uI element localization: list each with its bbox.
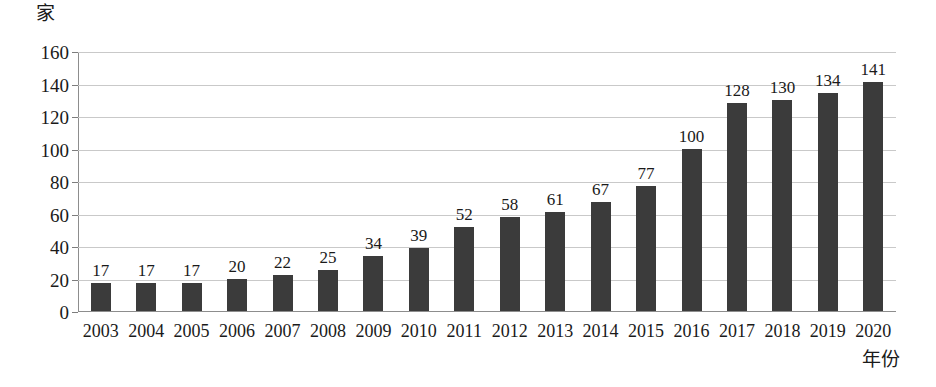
x-axis-tick-label: 2012 bbox=[492, 322, 528, 340]
y-axis-tick bbox=[72, 52, 78, 53]
y-axis-tick bbox=[72, 150, 78, 151]
bar-value-label: 128 bbox=[724, 82, 750, 99]
y-axis-tick-label: 80 bbox=[50, 173, 69, 192]
bar-value-label: 58 bbox=[501, 196, 518, 213]
y-axis-tick bbox=[72, 312, 78, 313]
bar-value-label: 20 bbox=[229, 258, 246, 275]
bar-value-label: 67 bbox=[592, 181, 609, 198]
bar bbox=[363, 256, 383, 311]
bar bbox=[227, 279, 247, 312]
y-axis-tick bbox=[72, 117, 78, 118]
x-axis-tick-label: 2009 bbox=[355, 322, 391, 340]
bar bbox=[454, 227, 474, 312]
x-axis-tick-label: 2007 bbox=[265, 322, 301, 340]
y-axis-tick bbox=[72, 85, 78, 86]
bar bbox=[682, 149, 702, 312]
bar-value-label: 17 bbox=[92, 262, 109, 279]
y-axis-tick-label: 160 bbox=[41, 43, 70, 62]
y-axis-tick-label: 20 bbox=[50, 270, 69, 289]
bar-value-label: 39 bbox=[410, 227, 427, 244]
y-axis-tick-label: 100 bbox=[41, 140, 70, 159]
x-axis-tick-label: 2010 bbox=[401, 322, 437, 340]
x-axis-tick-label: 2004 bbox=[128, 322, 164, 340]
plot-area: 020406080100120140160 171717202225343952… bbox=[78, 52, 896, 312]
y-axis-tick bbox=[72, 215, 78, 216]
bar-value-label: 134 bbox=[815, 72, 841, 89]
x-axis-tick-label: 2019 bbox=[810, 322, 846, 340]
y-axis-tick-label: 0 bbox=[60, 303, 70, 322]
bar bbox=[409, 248, 429, 311]
bar-value-label: 52 bbox=[456, 206, 473, 223]
y-axis-tick-label: 40 bbox=[50, 238, 69, 257]
x-axis-tick-label: 2018 bbox=[764, 322, 800, 340]
bar bbox=[863, 82, 883, 311]
bar bbox=[636, 186, 656, 311]
x-axis-tick-label: 2020 bbox=[855, 322, 891, 340]
y-axis-tick bbox=[72, 182, 78, 183]
x-axis-tick-label: 2008 bbox=[310, 322, 346, 340]
x-axis-tick-label: 2003 bbox=[83, 322, 119, 340]
x-axis-tick-label: 2015 bbox=[628, 322, 664, 340]
y-axis-tick-label: 60 bbox=[50, 205, 69, 224]
x-axis-tick-label: 2005 bbox=[174, 322, 210, 340]
bar-value-label: 61 bbox=[547, 191, 564, 208]
bar-chart: 家 020406080100120140160 1717172022253439… bbox=[0, 0, 936, 387]
gridline bbox=[78, 52, 896, 53]
x-axis-tick-label: 2017 bbox=[719, 322, 755, 340]
bar-value-label: 25 bbox=[319, 249, 336, 266]
bar-value-label: 34 bbox=[365, 235, 382, 252]
bar bbox=[318, 270, 338, 311]
x-axis-tick-label: 2014 bbox=[583, 322, 619, 340]
y-axis-tick bbox=[72, 247, 78, 248]
y-axis-unit-label: 家 bbox=[36, 4, 55, 23]
x-axis-tick-label: 2011 bbox=[447, 322, 482, 340]
bar-value-label: 22 bbox=[274, 254, 291, 271]
x-axis-tick-label: 2013 bbox=[537, 322, 573, 340]
bar-value-label: 17 bbox=[183, 262, 200, 279]
bar bbox=[182, 283, 202, 311]
bar-value-label: 130 bbox=[770, 79, 796, 96]
bar-value-label: 17 bbox=[138, 262, 155, 279]
y-axis-tick-label: 140 bbox=[41, 75, 70, 94]
bar bbox=[500, 217, 520, 311]
bar bbox=[727, 103, 747, 311]
bar-value-label: 77 bbox=[638, 165, 655, 182]
x-axis-line bbox=[78, 311, 896, 312]
y-axis-tick bbox=[72, 280, 78, 281]
x-axis-title: 年份 bbox=[862, 350, 900, 369]
bar bbox=[273, 275, 293, 311]
bar bbox=[91, 283, 111, 311]
bar-value-label: 141 bbox=[861, 61, 887, 78]
bar bbox=[136, 283, 156, 311]
x-axis-tick-label: 2006 bbox=[219, 322, 255, 340]
bar-value-label: 100 bbox=[679, 128, 705, 145]
bar bbox=[818, 93, 838, 311]
x-axis-tick-label: 2016 bbox=[674, 322, 710, 340]
y-axis-tick-label: 120 bbox=[41, 108, 70, 127]
bar bbox=[772, 100, 792, 311]
bar bbox=[591, 202, 611, 311]
bar bbox=[545, 212, 565, 311]
